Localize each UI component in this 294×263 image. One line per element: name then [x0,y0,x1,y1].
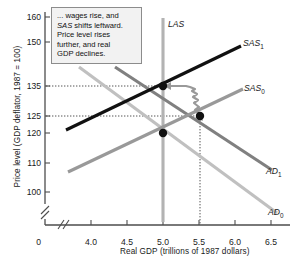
curve-label-ad1-sub: 1 [278,171,282,178]
curve-label-ad1-base: AD [266,166,278,176]
y-tick-label-160: 160 [19,12,41,22]
y-tick-label-125: 125 [19,111,41,121]
x-tick-label-5-5: 5.5 [185,237,213,247]
x-tick-label-4-0: 4.0 [77,237,105,247]
curve-label-las: LAS [168,19,184,29]
curve-label-sas0: SAS0 [244,83,265,95]
y-tick-label-120: 120 [19,128,41,138]
callout-sas-italic: SAS [57,21,72,30]
economics-asad-chart: 160 150 135 125 120 110 100 0 4.0 4.5 5.… [0,0,294,263]
zigzag-path [168,86,199,114]
y-tick-label-110: 110 [19,158,41,168]
callout-line-2: SAS shifts leftward. [57,21,137,31]
x-axis-title: Real GDP (trillions of 1987 dollars) [120,247,250,256]
curve-label-sas1-base: SAS [243,38,260,48]
x-tick-label-6-0: 6.0 [221,237,249,247]
x-axis-ticks [91,220,271,225]
curve-label-sas1-sub: 1 [260,43,264,50]
curve-label-sas1: SAS1 [243,38,264,50]
curve-label-ad0-sub: 0 [280,212,284,219]
curve-label-sas0-sub: 0 [261,88,265,95]
point-new-long-run-equilibrium [159,82,167,90]
x-tick-label-5-0: 5.0 [149,237,177,247]
x-tick-label-6-5: 6.5 [257,237,285,247]
point-short-run-equilibrium [196,112,204,120]
curve-label-ad0-base: AD [268,207,280,217]
curve-label-ad1: AD1 [266,166,282,178]
origin-label: 0 [19,237,41,247]
curve-sas0 [68,89,243,172]
callout-line-3: Price level rises [57,30,137,40]
y-axis-ticks [45,17,50,192]
curve-label-ad0: AD0 [268,207,284,219]
callout-line-2-rest: shifts leftward. [72,21,123,30]
curve-label-sas0-base: SAS [244,83,261,93]
x-tick-label-4-5: 4.5 [113,237,141,247]
explanation-callout: ... wages rise, and SAS shifts leftward.… [51,7,142,64]
point-initial-equilibrium [159,129,167,137]
y-axis-title: Price level (GDP deflator, 1987 = 100) [13,42,22,192]
callout-line-5: GDP declines. [57,49,137,59]
y-tick-label-135: 135 [19,81,41,91]
y-tick-label-100: 100 [19,187,41,197]
callout-line-1: ... wages rise, and [57,11,137,21]
y-tick-label-150: 150 [19,37,41,47]
callout-line-4: further, and real [57,40,137,50]
